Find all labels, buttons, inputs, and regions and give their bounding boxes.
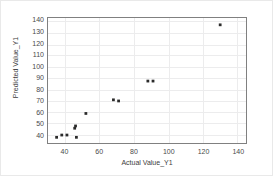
y-tick-label: 70 <box>36 97 44 105</box>
y-tick-label: 50 <box>36 120 44 128</box>
data-point <box>84 112 87 115</box>
y-tick-label: 140 <box>32 16 44 24</box>
y-tick-label: 130 <box>32 28 44 36</box>
data-point <box>75 136 78 139</box>
x-tick-label: 100 <box>163 148 175 156</box>
data-point <box>66 134 69 137</box>
y-tick-label: 40 <box>36 132 44 140</box>
x-axis-tick-labels: 406080100120140 <box>47 148 247 158</box>
x-tick-label: 120 <box>198 148 210 156</box>
y-axis-tick-labels: 405060708090100110120130140 <box>19 17 44 144</box>
x-tick-label: 140 <box>232 148 244 156</box>
data-point <box>152 80 155 83</box>
data-point <box>55 136 58 139</box>
y-tick-label: 90 <box>36 74 44 82</box>
x-tick-label: 80 <box>130 148 138 156</box>
x-tick-label: 60 <box>95 148 103 156</box>
data-point <box>117 100 120 103</box>
y-tick-label: 60 <box>36 109 44 117</box>
y-tick-label: 110 <box>33 51 44 59</box>
data-point <box>60 134 63 137</box>
x-axis-title: Actual Value_Y1 <box>47 159 247 166</box>
data-point <box>112 98 115 101</box>
x-tick-label: 40 <box>60 148 68 156</box>
plot-area <box>47 17 247 144</box>
data-point <box>219 23 222 26</box>
y-axis-title: Predicted Value_Y1 <box>12 18 19 118</box>
data-point <box>74 125 77 128</box>
scatter-points <box>48 18 246 143</box>
data-point <box>146 80 149 83</box>
y-tick-label: 100 <box>32 63 44 71</box>
y-tick-label: 120 <box>32 40 44 48</box>
chart-page: 405060708090100110120130140 406080100120… <box>0 0 273 176</box>
y-tick-label: 80 <box>36 86 44 94</box>
